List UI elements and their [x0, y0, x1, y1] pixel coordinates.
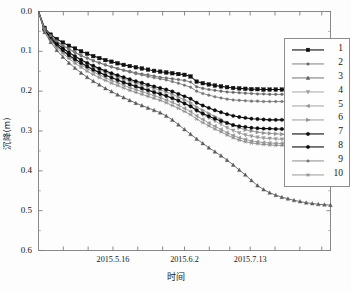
y-tick-label: 0.0	[2, 6, 32, 16]
x-tick-label: 2015.6.2	[155, 255, 215, 264]
y-tick-label: 0.5	[2, 205, 32, 215]
legend-marker-3-icon	[291, 71, 325, 85]
legend-marker-7-icon	[291, 126, 325, 140]
legend-label-3: 3	[338, 71, 343, 81]
legend-marker-4-icon	[291, 85, 325, 99]
legend-marker-2-icon	[291, 57, 325, 71]
legend[interactable]: 12345678910	[284, 38, 350, 187]
legend-item-2[interactable]: 2	[285, 57, 349, 71]
legend-item-3[interactable]: 3	[285, 71, 349, 85]
y-axis-label-wrapper: 沉降(m)	[0, 104, 14, 168]
legend-item-8[interactable]: 8	[285, 140, 349, 154]
y-tick-label: 0.3	[2, 125, 32, 135]
legend-marker-10-icon	[291, 168, 325, 182]
legend-label-8: 8	[338, 140, 343, 150]
legend-label-2: 2	[338, 57, 343, 67]
legend-label-5: 5	[338, 99, 343, 109]
legend-marker-5-icon	[291, 99, 325, 113]
legend-marker-6-icon	[291, 113, 325, 127]
legend-item-5[interactable]: 5	[285, 99, 349, 113]
legend-marker-9-icon	[291, 154, 325, 168]
x-tick-label: 2015.7.13	[220, 255, 280, 264]
legend-item-10[interactable]: 10	[285, 168, 349, 182]
legend-item-1[interactable]: 1	[285, 43, 349, 57]
settlement-time-series-chart: 沉降(m) 时间 0.00.10.20.30.40.50.6 2015.5.16…	[0, 0, 351, 292]
x-axis-label: 时间	[0, 270, 351, 283]
legend-label-9: 9	[338, 154, 343, 164]
legend-marker-8-icon	[291, 140, 325, 154]
legend-label-4: 4	[338, 85, 343, 95]
legend-item-9[interactable]: 9	[285, 154, 349, 168]
legend-label-1: 1	[338, 43, 343, 53]
legend-item-4[interactable]: 4	[285, 85, 349, 99]
legend-label-10: 10	[334, 168, 344, 178]
y-tick-label: 0.1	[2, 45, 32, 55]
legend-item-7[interactable]: 7	[285, 126, 349, 140]
legend-label-7: 7	[338, 126, 343, 136]
y-tick-label: 0.6	[2, 245, 32, 255]
y-tick-label: 0.4	[2, 165, 32, 175]
legend-label-6: 6	[338, 112, 343, 122]
legend-marker-1-icon	[291, 43, 325, 57]
legend-item-6[interactable]: 6	[285, 113, 349, 127]
x-tick-label: 2015.5.16	[83, 255, 143, 264]
y-tick-label: 0.2	[2, 85, 32, 95]
